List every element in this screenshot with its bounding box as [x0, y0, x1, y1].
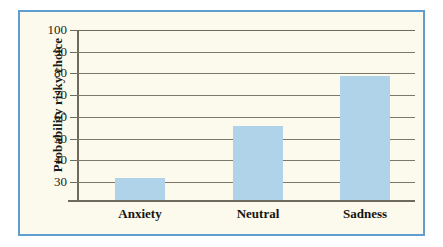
y-tick-label-30: 30	[54, 174, 67, 190]
y-tick-40	[70, 160, 77, 161]
y-tick-label-60: 60	[54, 109, 67, 125]
gridline-90	[77, 52, 415, 53]
bar-anxiety	[115, 178, 165, 200]
y-tick-label-90: 90	[54, 44, 67, 60]
y-tick-70	[70, 95, 77, 96]
gridline-100	[77, 30, 415, 31]
y-tick-50	[70, 139, 77, 140]
y-tick-80	[70, 73, 77, 74]
y-tick-90	[70, 52, 77, 53]
x-axis-line	[68, 200, 415, 202]
y-axis-line	[77, 30, 79, 200]
x-axis-label-sadness: Sadness	[343, 206, 387, 222]
y-tick-label-100: 100	[48, 22, 68, 38]
y-tick-30	[70, 182, 77, 183]
figure-canvas: Probability risky choice 304050607080901…	[0, 0, 443, 247]
bar-sadness	[340, 76, 390, 200]
y-tick-label-50: 50	[54, 131, 67, 147]
y-tick-label-80: 80	[54, 65, 67, 81]
x-axis-label-anxiety: Anxiety	[118, 206, 161, 222]
chart-frame: Probability risky choice 304050607080901…	[18, 10, 425, 236]
x-axis-label-neutral: Neutral	[237, 206, 280, 222]
y-tick-label-70: 70	[54, 87, 67, 103]
y-tick-100	[70, 30, 77, 31]
gridline-80	[77, 73, 415, 74]
plot-area: 30405060708090100 AnxietyNeutralSadness	[77, 30, 415, 200]
bar-neutral	[233, 126, 283, 200]
y-tick-60	[70, 117, 77, 118]
y-tick-label-40: 40	[54, 152, 67, 168]
